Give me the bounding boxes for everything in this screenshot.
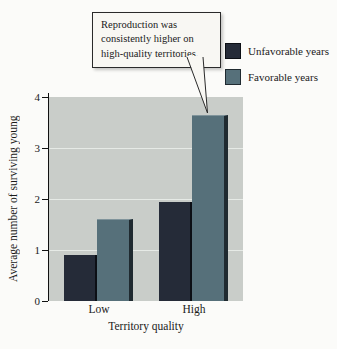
- y-tick-2: [42, 199, 48, 200]
- legend-item-unfavorable: Unfavorable years: [225, 43, 329, 59]
- plot-area: 01234LowHigh: [49, 97, 243, 301]
- y-tick-label-3: 3: [22, 142, 40, 154]
- y-tick-label-2: 2: [22, 193, 40, 205]
- x-axis-title: Territory quality: [49, 320, 243, 332]
- legend-swatch-favorable-icon: [225, 69, 241, 85]
- y-tick-label-4: 4: [22, 91, 40, 103]
- y-tick-0: [42, 301, 48, 302]
- figure: Reproduction was consistently higher on …: [0, 0, 337, 349]
- x-category-label-low: Low: [77, 303, 121, 315]
- bar-high-unfavorable: [159, 202, 192, 301]
- legend-item-favorable: Favorable years: [225, 69, 318, 85]
- y-tick-label-0: 0: [22, 295, 40, 307]
- bar-low-favorable: [97, 219, 133, 301]
- bar-high-favorable: [192, 115, 228, 301]
- legend-swatch-unfavorable-icon: [225, 43, 241, 59]
- bar-low-unfavorable: [64, 255, 97, 301]
- y-tick-3: [42, 148, 48, 149]
- annotation-callout: Reproduction was consistently higher on …: [92, 12, 221, 68]
- annotation-text: Reproduction was consistently higher on …: [101, 19, 198, 59]
- x-category-label-high: High: [172, 303, 216, 315]
- y-tick-1: [42, 250, 48, 251]
- y-axis-title: Average number of surviving young: [6, 97, 20, 301]
- y-tick-4: [42, 97, 48, 98]
- y-axis-line: [48, 93, 49, 301]
- legend-label-favorable: Favorable years: [248, 71, 318, 83]
- legend-label-unfavorable: Unfavorable years: [248, 45, 329, 57]
- y-tick-label-1: 1: [22, 244, 40, 256]
